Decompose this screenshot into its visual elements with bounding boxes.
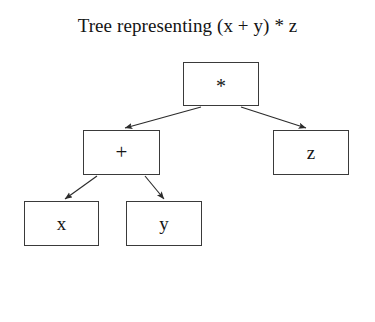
- node-y-label: y: [159, 214, 169, 233]
- edge-multiply-to-z: [241, 107, 306, 128]
- node-x[interactable]: x: [24, 201, 99, 246]
- edge-multiply-to-plus: [125, 107, 201, 128]
- edge-plus-to-y: [145, 176, 164, 199]
- node-plus-label: +: [116, 142, 128, 163]
- node-multiply[interactable]: *: [183, 62, 259, 106]
- node-x-label: x: [57, 214, 67, 233]
- node-multiply-label: *: [216, 76, 226, 96]
- diagram-canvas: Tree representing (x + y) * z * + z x y: [0, 0, 375, 322]
- node-z-label: z: [307, 143, 315, 162]
- node-plus[interactable]: +: [83, 130, 160, 175]
- edge-plus-to-x: [65, 176, 97, 199]
- node-y[interactable]: y: [126, 201, 202, 246]
- node-z[interactable]: z: [273, 130, 349, 175]
- page-title: Tree representing (x + y) * z: [0, 14, 375, 38]
